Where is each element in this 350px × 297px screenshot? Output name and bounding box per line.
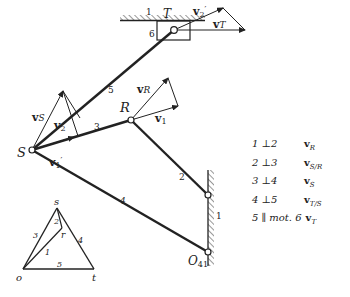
joint-T xyxy=(171,27,178,34)
legend-row: 2 ⊥3 vS/R xyxy=(252,156,322,175)
label-v1: v1 xyxy=(154,112,167,126)
label-T: T xyxy=(163,7,172,21)
legend-condition: 5 ∥ mot. 6 xyxy=(252,211,302,230)
poly-label-s: s xyxy=(54,196,59,207)
legend-condition: 2 ⊥3 xyxy=(252,156,304,175)
legend-vector: vS xyxy=(304,174,315,193)
label-link-5: 5 xyxy=(108,85,114,95)
legend-condition: 3 ⊥4 xyxy=(252,174,304,193)
label-link-6: 6 xyxy=(149,29,155,39)
label-vS: vS xyxy=(31,111,45,124)
joint-wall xyxy=(205,192,211,198)
poly-label-3: 3 xyxy=(33,231,38,240)
poly-label-o: o xyxy=(16,272,22,283)
legend-row: 3 ⊥4 vS xyxy=(252,174,322,193)
label-v2: v2 xyxy=(53,119,66,133)
legend-row: 4 ⊥5 vT/S xyxy=(252,193,322,212)
legend-vector: vT xyxy=(306,211,316,230)
legend: 1 ⊥2 vR 2 ⊥3 vS/R 3 ⊥4 vS 4 ⊥5 vT/S 5 ∥ … xyxy=(252,137,322,230)
label-link-1-wall: 1 xyxy=(216,211,222,221)
poly-label-5: 5 xyxy=(57,260,62,269)
legend-condition: 4 ⊥5 xyxy=(252,193,304,212)
label-v2p: v2′ xyxy=(192,4,207,19)
legend-row: 5 ∥ mot. 6 vT xyxy=(252,211,322,230)
poly-label-1: 1 xyxy=(45,248,50,257)
label-R: R xyxy=(119,100,130,115)
legend-condition: 1 ⊥2 xyxy=(252,137,304,156)
link-2 xyxy=(131,120,208,195)
triangle-side-r xyxy=(168,78,178,106)
label-O41: O41 xyxy=(188,254,208,269)
label-vR: vR xyxy=(136,83,150,96)
label-link-3: 3 xyxy=(94,122,100,132)
label-S: S xyxy=(17,145,26,160)
legend-vector: vR xyxy=(304,137,315,156)
label-link-2: 2 xyxy=(179,172,185,182)
joint-O41 xyxy=(205,249,211,255)
legend-vector: vT/S xyxy=(304,193,322,212)
label-v1p: v1′ xyxy=(48,155,63,170)
legend-row: 1 ⊥2 vR xyxy=(252,137,322,156)
legend-vector: vS/R xyxy=(304,156,322,175)
link-5 xyxy=(32,30,174,150)
joint-R xyxy=(128,117,134,123)
poly-label-4: 4 xyxy=(77,236,83,245)
poly-label-r: r xyxy=(61,230,66,240)
label-vT: vT xyxy=(212,18,226,31)
poly-label-2: 2 xyxy=(53,217,59,226)
label-link-1-top: 1 xyxy=(146,7,152,17)
label-link-4: 4 xyxy=(119,196,126,206)
triangle-side-t xyxy=(223,8,245,30)
joint-S xyxy=(29,147,35,153)
vector-v2 xyxy=(63,91,80,118)
velocity-polygon: s o t r 1 2 3 4 5 xyxy=(16,196,97,283)
poly-label-t: t xyxy=(92,272,97,283)
